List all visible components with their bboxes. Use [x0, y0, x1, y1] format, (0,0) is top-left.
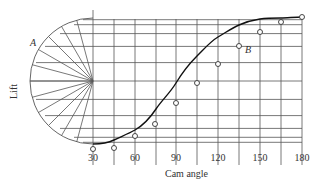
point-label-b: B	[245, 44, 251, 55]
x-tick-30: 30	[88, 152, 98, 163]
x-axis-label: Cam angle	[165, 168, 208, 179]
x-tick-120: 120	[211, 152, 226, 163]
cam-lift-diagram	[0, 0, 315, 186]
point-label-a: A	[30, 37, 36, 48]
x-tick-90: 90	[171, 152, 181, 163]
curve-points	[91, 15, 305, 152]
y-axis-label: Lift	[8, 84, 19, 99]
x-tick-180: 180	[295, 152, 310, 163]
radial-lines	[30, 20, 93, 142]
x-tick-60: 60	[130, 152, 140, 163]
x-tick-150: 150	[253, 152, 268, 163]
